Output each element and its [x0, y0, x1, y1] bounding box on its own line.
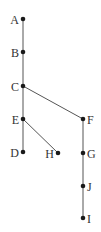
node-label-H: H: [45, 147, 54, 161]
nodes: [21, 17, 86, 221]
node-J: [81, 184, 86, 189]
edge-C-F: [23, 86, 83, 119]
node-G: [81, 151, 86, 156]
node-label-I: I: [87, 212, 91, 226]
node-C: [21, 84, 26, 89]
tree-diagram: ABCEDHFGJI: [0, 0, 101, 232]
node-label-J: J: [87, 180, 92, 194]
node-I: [81, 216, 86, 221]
node-label-F: F: [87, 113, 94, 127]
node-label-G: G: [87, 147, 96, 161]
node-H: [56, 151, 61, 156]
node-label-E: E: [12, 113, 19, 127]
node-label-A: A: [10, 13, 19, 27]
node-B: [21, 50, 26, 55]
node-E: [21, 117, 26, 122]
edges: [23, 19, 83, 218]
node-F: [81, 117, 86, 122]
node-A: [21, 17, 26, 22]
node-label-C: C: [11, 80, 19, 94]
node-label-D: D: [10, 146, 19, 160]
node-D: [21, 150, 26, 155]
node-label-B: B: [11, 46, 19, 60]
